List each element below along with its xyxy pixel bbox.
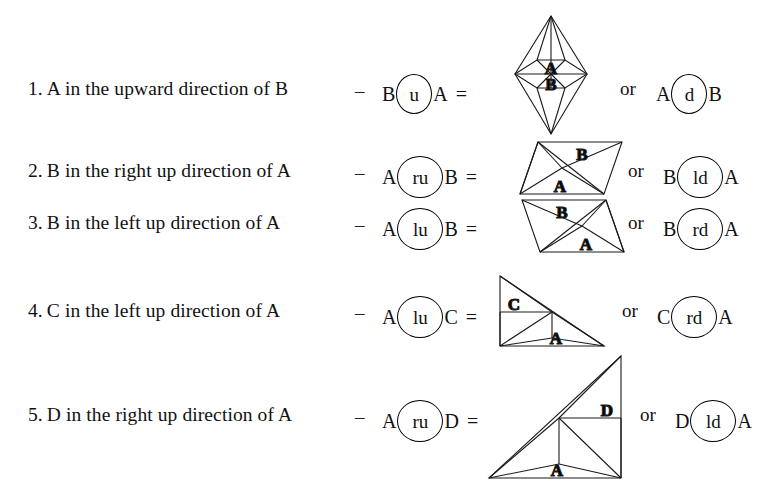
- row-4-alternative-expression: C rd A: [656, 296, 734, 338]
- figure-1-label-B: B: [545, 75, 556, 94]
- row-3-alt-left-operand: B: [662, 219, 677, 239]
- row-4-description-text: C in the left up direction of A: [47, 300, 280, 321]
- row-4-description-line: 4.C in the left up direction of A: [28, 300, 280, 322]
- row-4-expr-right-operand: C: [443, 307, 458, 327]
- row-5-operator-ld-circle: ld: [690, 400, 736, 442]
- row-1-alternative-expression: A d B: [655, 74, 723, 114]
- row-1-number: 1.: [28, 78, 43, 99]
- figure-parallelogram-b-right-up-of-a: B A: [516, 138, 628, 200]
- row-2-alternative-expression: B ld A: [662, 156, 740, 198]
- row-2-or-word: or: [628, 160, 644, 182]
- row-2-operator-ld-circle: ld: [677, 156, 723, 198]
- row-2-expr-left-operand: A: [381, 167, 397, 187]
- figure-right-triangle-c-left-up-of-a: C A: [490, 272, 610, 352]
- row-1-dash: –: [355, 80, 365, 102]
- figure-3-label-A: A: [580, 235, 593, 254]
- row-3-expression: A lu B =: [381, 208, 477, 250]
- row-4-operator-rd-circle: rd: [671, 296, 717, 338]
- figure-4-label-A: A: [550, 329, 563, 348]
- row-1-operator-u-circle: u: [396, 74, 432, 114]
- row-5-alt-left-operand: D: [674, 411, 690, 431]
- row-1-operator-d-circle: d: [671, 74, 707, 114]
- figure-bipyramid-a-over-b: A B: [495, 12, 605, 138]
- figure-parallelogram-b-left-up-of-a: B A: [516, 196, 628, 258]
- figure-2-label-B: B: [576, 145, 587, 164]
- row-3-alternative-expression: B rd A: [662, 208, 740, 250]
- row-1-description-text: A in the upward direction of B: [47, 78, 288, 99]
- row-2-alt-right-operand: A: [723, 167, 739, 187]
- row-2-alt-left-operand: B: [662, 167, 677, 187]
- row-2-description-line: 2.B in the right up direction of A: [28, 160, 291, 182]
- row-5-expression: A ru D =: [381, 400, 478, 442]
- row-3-operator-lu-circle: lu: [397, 208, 443, 250]
- row-2-expr-right-operand: B: [443, 167, 458, 187]
- row-3-number: 3.: [28, 212, 43, 233]
- row-5-expr-right-operand: D: [443, 411, 459, 431]
- row-5-dash: –: [355, 406, 365, 428]
- row-4-alt-right-operand: A: [717, 307, 733, 327]
- row-5-number: 5.: [28, 404, 43, 425]
- row-3-dash: –: [355, 214, 365, 236]
- row-5-equals-sign: =: [467, 410, 478, 433]
- row-1-alt-right-operand: B: [707, 84, 722, 104]
- figure-right-triangle-d-right-up-of-a: D A: [483, 352, 631, 486]
- figure-5-label-A: A: [551, 461, 564, 480]
- row-5-description-text: D in the right up direction of A: [47, 404, 292, 425]
- figure-4-label-C: C: [508, 295, 520, 314]
- row-3-description-line: 3.B in the left up direction of A: [28, 212, 280, 234]
- row-2-dash: –: [355, 162, 365, 184]
- row-2-operator-ru-circle: ru: [397, 156, 443, 198]
- row-3-expr-left-operand: A: [381, 219, 397, 239]
- row-5-alt-right-operand: A: [736, 411, 752, 431]
- row-4-expr-left-operand: A: [381, 307, 397, 327]
- row-5-operator-ru-circle: ru: [397, 400, 443, 442]
- row-3-alt-right-operand: A: [723, 219, 739, 239]
- row-2-description-text: B in the right up direction of A: [47, 160, 291, 181]
- row-4-alt-left-operand: C: [656, 307, 671, 327]
- row-4-number: 4.: [28, 300, 43, 321]
- figure-2-label-A: A: [554, 177, 567, 196]
- row-5-alternative-expression: D ld A: [674, 400, 753, 442]
- row-3-or-word: or: [628, 212, 644, 234]
- row-2-equals-sign: =: [466, 166, 477, 189]
- row-1-description-line: 1.A in the upward direction of B: [28, 78, 288, 100]
- row-1-expression: B u A =: [381, 74, 467, 114]
- diagram-page: 1.A in the upward direction of B – B u A…: [0, 0, 773, 490]
- row-1-or-word: or: [620, 78, 636, 100]
- row-5-expr-left-operand: A: [381, 411, 397, 431]
- row-1-alt-left-operand: A: [655, 84, 671, 104]
- figure-5-label-D: D: [601, 401, 613, 420]
- row-2-number: 2.: [28, 160, 43, 181]
- row-3-expr-right-operand: B: [443, 219, 458, 239]
- row-1-expr-left-operand: B: [381, 84, 396, 104]
- row-5-or-word: or: [640, 404, 656, 426]
- figure-3-label-B: B: [556, 203, 567, 222]
- row-4-expression: A lu C =: [381, 296, 477, 338]
- row-4-equals-sign: =: [466, 306, 477, 329]
- row-4-dash: –: [355, 302, 365, 324]
- row-3-equals-sign: =: [466, 218, 477, 241]
- row-4-or-word: or: [622, 300, 638, 322]
- row-1-expr-right-operand: A: [432, 84, 448, 104]
- row-1-equals-sign: =: [456, 83, 467, 106]
- row-5-description-line: 5.D in the right up direction of A: [28, 404, 292, 426]
- row-4-operator-lu-circle: lu: [397, 296, 443, 338]
- row-2-expression: A ru B =: [381, 156, 477, 198]
- row-3-operator-rd-circle: rd: [677, 208, 723, 250]
- row-3-description-text: B in the left up direction of A: [47, 212, 280, 233]
